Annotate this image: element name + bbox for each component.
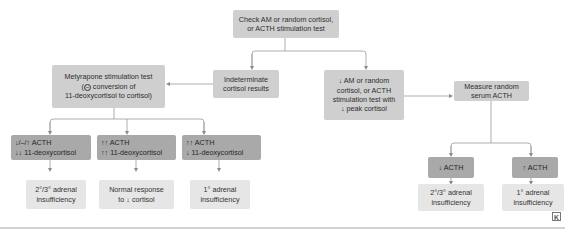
outcome-line-2: insufficiency	[35, 195, 77, 204]
metyrapone-result-2: ↑↑ ACTH ↑↑ 11-deoxycortisol	[97, 135, 176, 160]
result-acth: ↑↑ ACTH	[101, 138, 162, 147]
outcome-line-1: 2°/3° adrenal	[430, 188, 472, 197]
connector-branch-top	[252, 51, 366, 68]
outcome-line-1: 1° adrenal	[513, 188, 552, 197]
result-acth: ↑↑ ACTH	[186, 138, 243, 147]
outcome-line-2: to ↓ cortisol	[109, 195, 164, 204]
metyrapone-outcome-2: Normal response to ↓ cortisol	[99, 180, 174, 209]
outcome-line-2: insufficiency	[200, 195, 239, 204]
footer-divider	[0, 227, 565, 229]
low-cortisol-line-2: cortisol, or ACTH	[333, 86, 396, 95]
indeterminate-line-2: cortisol results	[223, 84, 269, 93]
acth-result-high: ↑ ACTH	[512, 157, 558, 178]
measure-acth-line-2: serum ACTH	[464, 91, 518, 100]
start-line-1: Check AM or random cortisol,	[239, 15, 333, 24]
outcome-line-1: 2°/3° adrenal	[35, 185, 77, 194]
low-cortisol-line-4: ↓ peak cortisol	[333, 104, 396, 113]
metyrapone-result-1: ↓/–/↑ ACTH ↓↓ 11-deoxycortisol	[11, 135, 91, 160]
low-cortisol-line-1: ↓ AM or random	[333, 76, 396, 85]
metyrapone-line-3: 11-deoxycortisol to cortisol)	[65, 91, 153, 100]
result-acth: ↑ ACTH	[523, 163, 548, 172]
measure-acth-box: Measure random serum ACTH	[454, 81, 529, 101]
low-cortisol-box: ↓ AM or random cortisol, or ACTH stimula…	[324, 70, 404, 120]
metyrapone-test-box: Metyrapone stimulation test (− conversio…	[52, 65, 165, 108]
measure-acth-line-1: Measure random	[464, 82, 518, 91]
metyrapone-line-2: (− conversion of	[65, 82, 153, 91]
start-line-2: or ACTH stimulation test	[239, 24, 333, 33]
acth-result-low: ↓ ACTH	[428, 157, 474, 178]
metyrapone-result-3: ↑↑ ACTH ↓ 11-deoxycortisol	[182, 135, 261, 160]
indeterminate-results-box: Indeterminate cortisol results	[213, 70, 279, 98]
outcome-line-2: insufficiency	[513, 198, 552, 207]
result-acth: ↓/–/↑ ACTH	[15, 138, 76, 147]
metyrapone-outcome-1: 2°/3° adrenal insufficiency	[26, 180, 86, 209]
start-check-cortisol-box: Check AM or random cortisol, or ACTH sti…	[233, 10, 339, 38]
acth-outcome-low: 2°/3° adrenal insufficiency	[418, 184, 484, 211]
metyrapone-line-2-text: conversion of	[91, 82, 136, 91]
result-acth: ↓ ACTH	[439, 163, 464, 172]
low-cortisol-line-3: stimulation test with	[333, 95, 396, 104]
outcome-line-2: insufficiency	[430, 198, 472, 207]
outcome-line-1: 1° adrenal	[200, 185, 239, 194]
indeterminate-line-1: Indeterminate	[223, 75, 269, 84]
outcome-line-1: Normal response	[109, 185, 164, 194]
result-deoxycortisol: ↓ 11-deoxycortisol	[186, 148, 243, 157]
metyrapone-outcome-3: 1° adrenal insufficiency	[190, 180, 250, 209]
acth-outcome-high: 1° adrenal insufficiency	[502, 184, 564, 211]
result-deoxycortisol: ↓↓ 11-deoxycortisol	[15, 148, 76, 157]
result-deoxycortisol: ↑↑ 11-deoxycortisol	[101, 148, 162, 157]
inhibit-icon: −	[84, 84, 91, 91]
metyrapone-line-1: Metyrapone stimulation test	[65, 72, 153, 81]
connector-acth-results	[451, 143, 531, 156]
publisher-logo-icon: K	[552, 212, 561, 221]
